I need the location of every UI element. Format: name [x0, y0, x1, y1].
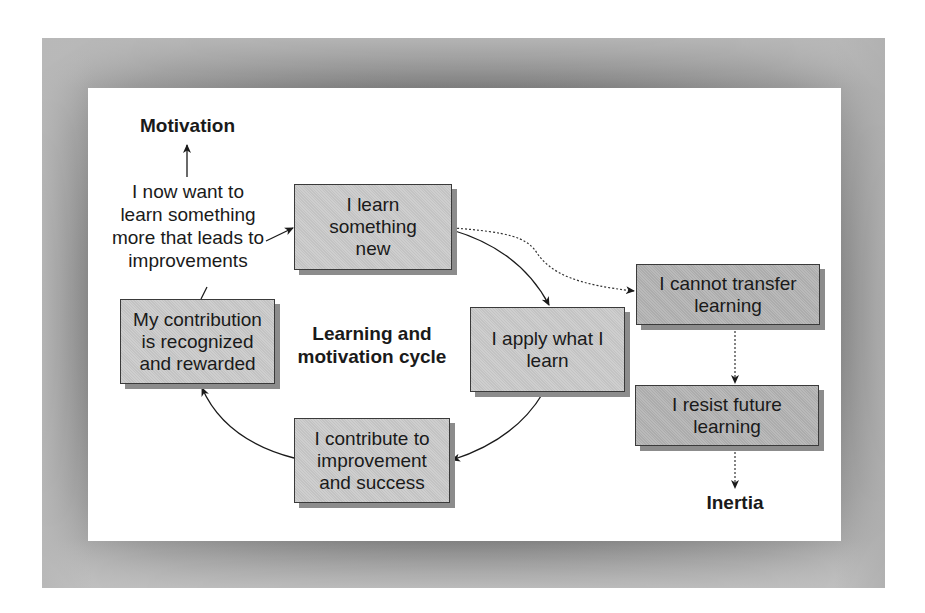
- node-cannot-transfer-learning: I cannot transfer learning: [636, 264, 820, 325]
- motivation-description: I now want to learn something more that …: [98, 180, 278, 272]
- node-learn-something-new: I learn something new: [294, 184, 452, 270]
- node-resist-future-learning: I resist future learning: [635, 385, 819, 446]
- motivation-line-1: I now want to: [98, 180, 278, 203]
- node-contribute-to-improvement: I contribute to improvement and success: [294, 418, 450, 503]
- node-apply-what-i-learn: I apply what I learn: [470, 307, 625, 392]
- inertia-label: Inertia: [690, 492, 780, 514]
- node-contribution-recognized: My contribution is recognized and reward…: [120, 299, 275, 384]
- motivation-line-4: improvements: [98, 249, 278, 272]
- cycle-title: Learning and motivation cycle: [292, 322, 452, 368]
- motivation-line-3: more that leads to: [98, 226, 278, 249]
- motivation-line-2: learn something: [98, 203, 278, 226]
- motivation-label: Motivation: [130, 115, 245, 137]
